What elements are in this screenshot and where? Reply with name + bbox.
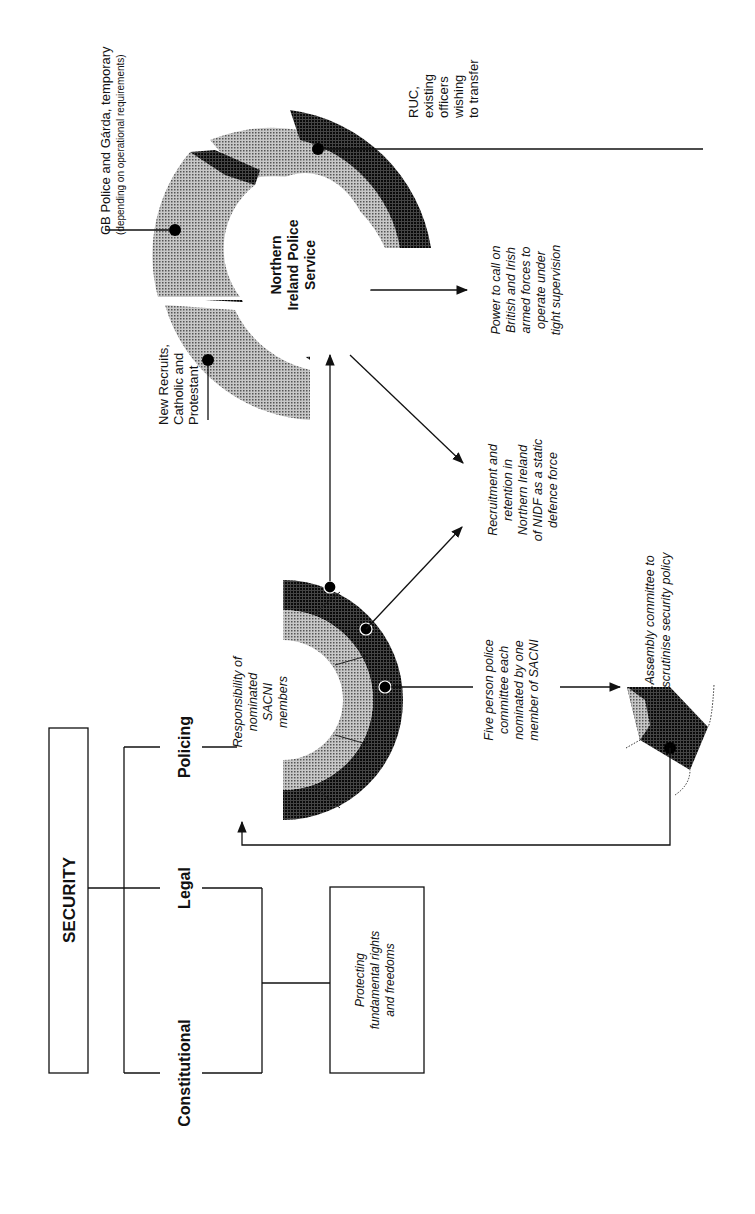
svg-text:British and Irish: British and Irish <box>504 247 518 333</box>
svg-text:committee each: committee each <box>497 646 511 734</box>
svg-text:Northern: Northern <box>268 235 284 294</box>
svg-text:wishing: wishing <box>451 75 466 119</box>
security-diagram: SECURITY Policing Legal Constitutional P… <box>0 0 755 1214</box>
sacni-node-committee <box>379 681 391 693</box>
svg-text:(depending on operational requ: (depending on operational requirements) <box>115 54 126 235</box>
svg-text:members: members <box>276 676 290 728</box>
svg-text:nominated by one: nominated by one <box>512 640 526 739</box>
arrow-nips-to-nidf <box>350 355 463 463</box>
svg-text:Protestant: Protestant <box>186 365 201 425</box>
svg-text:Protecting: Protecting <box>353 953 367 1007</box>
svg-text:retention in: retention in <box>501 459 515 521</box>
svg-text:Power to call on: Power to call on <box>489 245 503 334</box>
svg-text:nominated: nominated <box>246 672 260 731</box>
sacni-node-nips <box>324 581 336 593</box>
svg-text:defence force: defence force <box>546 452 560 528</box>
svg-text:scrutinise security policy: scrutinise security policy <box>659 552 673 688</box>
svg-text:Catholic and: Catholic and <box>171 353 186 425</box>
svg-text:Responsibility of: Responsibility of <box>231 655 245 748</box>
svg-text:Assembly committee to: Assembly committee to <box>643 555 657 685</box>
svg-text:tight supervision: tight supervision <box>549 245 563 335</box>
new-recruits-node <box>202 354 214 366</box>
rights-label: Protecting fundamental rights and freedo… <box>353 931 397 1030</box>
gb-police-node <box>169 224 181 236</box>
branch-constitutional: Constitutional <box>176 1019 193 1127</box>
svg-text:Northern Ireland: Northern Ireland <box>516 444 530 535</box>
ruc-node <box>312 143 324 155</box>
gb-police-label: GB Police and Gárda, temporary (dependin… <box>98 46 126 235</box>
svg-text:armed forces to: armed forces to <box>519 247 533 334</box>
branch-legal: Legal <box>176 867 193 909</box>
svg-text:operate under: operate under <box>534 250 548 329</box>
arrow-sacni-to-nidf <box>366 527 462 629</box>
svg-text:to transfer: to transfer <box>466 59 481 118</box>
svg-text:New Recruits,: New Recruits, <box>156 344 171 425</box>
branch-policing: Policing <box>176 716 193 778</box>
svg-text:SACNI: SACNI <box>261 682 275 721</box>
svg-text:and freedoms: and freedoms <box>383 943 397 1016</box>
svg-text:existing: existing <box>421 74 436 118</box>
svg-text:officers: officers <box>436 76 451 118</box>
armed-forces-label: Power to call on British and Irish armed… <box>489 245 563 335</box>
svg-text:Recruitment and: Recruitment and <box>486 443 500 536</box>
svg-text:Service: Service <box>302 240 318 290</box>
svg-text:RUC,: RUC, <box>406 86 421 118</box>
svg-text:GB Police and Gárda, temporary: GB Police and Gárda, temporary <box>98 46 113 235</box>
svg-text:Five person police: Five person police <box>482 639 496 740</box>
svg-text:fundamental rights: fundamental rights <box>368 931 382 1030</box>
svg-text:Ireland Police: Ireland Police <box>285 219 301 310</box>
sacni-semicircle <box>283 580 403 820</box>
police-committee-label: Five person police committee each nomina… <box>482 639 541 741</box>
ruc-label: RUC, existing officers wishing to transf… <box>406 59 481 119</box>
assembly-label: Assembly committee to scrutinise securit… <box>643 552 673 688</box>
security-title: SECURITY <box>60 856 79 943</box>
svg-text:member of SACNI: member of SACNI <box>527 639 541 741</box>
sacni-label: Responsibility of nominated SACNI member… <box>231 655 290 748</box>
nidf-label: Recruitment and retention in Northern Ir… <box>486 438 560 541</box>
svg-text:of NIDF as a static: of NIDF as a static <box>531 438 545 541</box>
